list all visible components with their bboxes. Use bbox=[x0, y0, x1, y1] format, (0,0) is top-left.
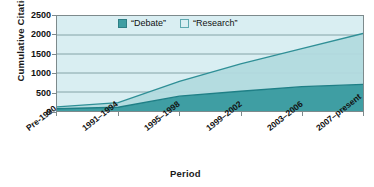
y-tick-500: 500 bbox=[8, 88, 51, 98]
x-axis-tickmark bbox=[118, 112, 119, 116]
x-axis-tickmark bbox=[241, 112, 242, 116]
legend-label-debate: “Debate” bbox=[131, 18, 166, 28]
legend: “Debate” “Research” bbox=[118, 18, 238, 28]
y-tick-1500: 1500 bbox=[8, 49, 51, 59]
legend-item-debate: “Debate” bbox=[118, 18, 166, 28]
x-axis-tickmark bbox=[56, 112, 57, 116]
plot-area bbox=[56, 15, 364, 112]
y-tick-2500: 2500 bbox=[8, 10, 51, 20]
citations-area-chart: Cumulative Citations 2500 2000 1500 1000… bbox=[0, 0, 374, 187]
legend-label-research: “Research” bbox=[193, 18, 238, 28]
x-axis-title: Period bbox=[170, 168, 201, 179]
y-tick-2000: 2000 bbox=[8, 29, 51, 39]
x-axis-tickmark bbox=[302, 112, 303, 116]
y-tick-1000: 1000 bbox=[8, 68, 51, 78]
x-axis-tickmark bbox=[363, 112, 364, 116]
legend-swatch-research-icon bbox=[180, 19, 189, 28]
legend-item-research: “Research” bbox=[180, 18, 238, 28]
x-axis-tickmark bbox=[179, 112, 180, 116]
plot-svg bbox=[57, 16, 363, 111]
legend-swatch-debate-icon bbox=[118, 19, 127, 28]
